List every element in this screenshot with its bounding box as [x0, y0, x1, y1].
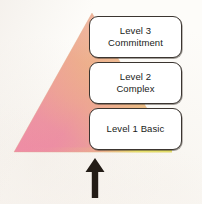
- level-2-line-2: Complex: [116, 83, 154, 96]
- level-box-1[interactable]: Level 1 Basic: [89, 108, 182, 150]
- level-box-2[interactable]: Level 2 Complex: [89, 62, 182, 104]
- level-3-line-2: Commitment: [108, 37, 163, 50]
- level-2-line-1: Level 2: [120, 71, 151, 84]
- level-1-line-1: Level 1 Basic: [107, 123, 165, 136]
- diagram-canvas: Level 3 Commitment Level 2 Complex Level…: [0, 0, 202, 204]
- upward-arrow-icon: [80, 157, 110, 199]
- level-box-3[interactable]: Level 3 Commitment: [89, 16, 182, 58]
- level-3-line-1: Level 3: [120, 25, 151, 38]
